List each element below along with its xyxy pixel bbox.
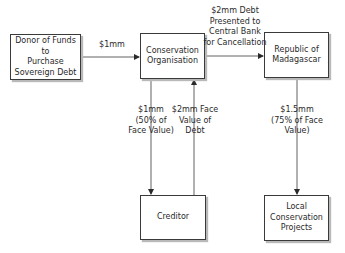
edge-label-donor-to-conservation: $1mm (92, 40, 132, 51)
edge-label-creditor-to-conservation: $2mm Face Value of Debt (170, 105, 220, 137)
node-creditor-label: Creditor (157, 212, 189, 223)
node-creditor: Creditor (140, 195, 206, 240)
node-republic-of-madagascar-label: Republic of Madagascar (272, 45, 321, 66)
node-conservation-organisation-label: Conservation Organisation (146, 46, 199, 67)
node-donor: Donor of Funds to Purchase Sovereign Deb… (10, 34, 81, 80)
node-donor-label: Donor of Funds to Purchase Sovereign Deb… (11, 36, 80, 78)
node-local-conservation-projects: Local Conservation Projects (264, 195, 329, 241)
node-republic-of-madagascar: Republic of Madagascar (264, 32, 329, 78)
node-local-conservation-projects-label: Local Conservation Projects (270, 202, 323, 234)
node-conservation-organisation: Conservation Organisation (140, 33, 205, 79)
edge-label-madagascar-to-local-projects: $1.5mm (75% of Face Value) (267, 105, 327, 137)
edge-label-conservation-to-madagascar: $2mm Debt Presented to Central Bank for … (200, 6, 270, 48)
